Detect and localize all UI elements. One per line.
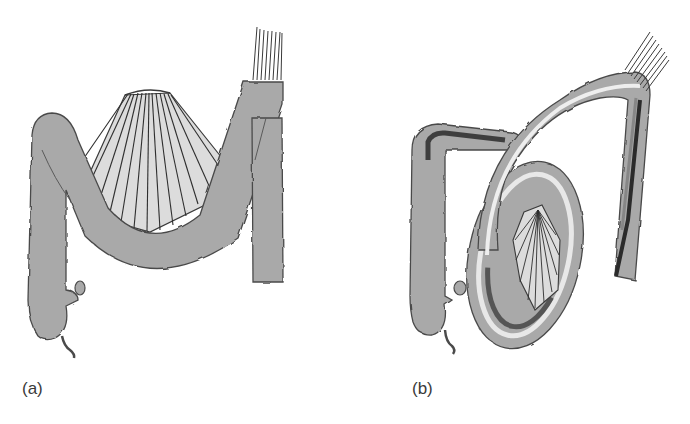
figure-canvas [0,0,690,424]
panel-b-volvulus [410,32,669,360]
appendix-stub-a [75,281,85,295]
vessels-bundle-a [253,27,282,80]
appendix-stub-b [454,281,466,295]
panel-a-normal-colon [28,27,283,358]
appendix-tail-a [62,336,74,358]
panel-label-a: (a) [22,379,43,399]
appendix-tail-b [445,330,454,354]
panel-label-b: (b) [412,379,433,399]
